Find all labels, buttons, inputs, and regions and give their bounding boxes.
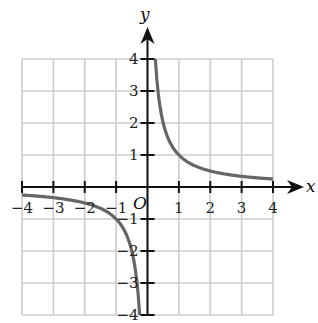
x-tick-label: −3 [42, 199, 64, 217]
x-tick-label: 2 [205, 199, 215, 217]
x-tick-label: 4 [268, 199, 278, 217]
axes [22, 27, 304, 315]
y-tick-label: 2 [129, 114, 139, 132]
x-axis-label: x [306, 176, 316, 196]
origin-label: O [133, 193, 147, 213]
y-tick-label: −2 [116, 242, 138, 260]
y-tick-label: −4 [116, 306, 138, 323]
x-tick-label: 3 [237, 199, 247, 217]
y-tick-label: −3 [116, 274, 138, 292]
curve-positive-branch [155, 59, 273, 179]
x-tick-label: 1 [174, 199, 184, 217]
y-tick-label: 4 [129, 50, 139, 68]
x-tick-label: −2 [74, 199, 96, 217]
x-tick-label: −4 [11, 199, 33, 217]
y-tick-label: 3 [129, 82, 139, 100]
y-tick-label: 1 [129, 146, 139, 164]
y-axis-label: y [139, 4, 150, 24]
function-graph: −4−3−2−11234−4−3−2−11234 x y O [0, 0, 318, 323]
